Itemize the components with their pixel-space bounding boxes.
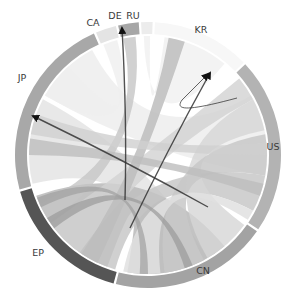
label-cn: CN [196,265,210,276]
arc-ru [141,22,153,34]
label-ca: CA [86,17,100,28]
label-ru: RU [126,10,140,21]
label-de: DE [108,10,121,21]
label-ep: EP [32,247,44,258]
chord-ribbons [29,36,267,274]
label-jp: JP [17,72,27,83]
arc-de [118,22,139,37]
chord-diagram: CADERUKRUSCNEPJP [0,0,293,296]
label-kr: KR [195,24,208,35]
label-us: US [267,141,280,152]
